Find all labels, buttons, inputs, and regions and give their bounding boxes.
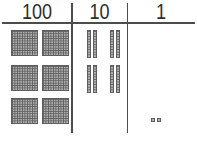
ten-rod xyxy=(110,30,114,58)
hundred-flat xyxy=(42,98,69,124)
hundred-flat xyxy=(42,30,69,56)
column-header-ones: 1 xyxy=(133,1,189,23)
column-divider-hundreds-tens xyxy=(71,3,73,133)
ten-rod xyxy=(93,30,97,58)
header-divider-line xyxy=(2,22,195,24)
ten-rod xyxy=(87,65,91,93)
hundred-flat xyxy=(42,65,69,91)
ten-rod xyxy=(110,65,114,93)
one-cube xyxy=(151,118,155,123)
ten-rod xyxy=(93,65,97,93)
ten-rod xyxy=(87,30,91,58)
ten-rod xyxy=(116,65,120,93)
column-header-tens: 10 xyxy=(77,1,122,23)
hundred-flat xyxy=(11,65,38,91)
column-header-hundreds: 100 xyxy=(8,1,65,23)
ten-rod xyxy=(116,30,120,58)
one-cube xyxy=(157,118,161,123)
hundred-flat xyxy=(11,30,38,56)
column-divider-tens-ones xyxy=(127,3,129,133)
hundred-flat xyxy=(11,98,38,124)
place-value-chart: 100 10 1 xyxy=(0,0,197,141)
